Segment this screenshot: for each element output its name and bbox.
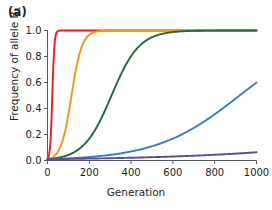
y-tick-label: 0.2 <box>26 129 42 140</box>
curve-blue-curve <box>48 83 257 160</box>
axes <box>44 31 257 165</box>
y-tick-label: 0.8 <box>26 51 42 62</box>
x-tick-label: 800 <box>205 167 224 178</box>
x-tick-label: 600 <box>163 167 182 178</box>
curve-green-curve <box>48 31 257 160</box>
y-tick-label: 0.0 <box>26 155 42 166</box>
y-tick-label: 1.0 <box>26 25 42 36</box>
y-tick-label: 0.4 <box>26 103 42 114</box>
figure-panel-a: (a) Frequency of allele B1 Generation 0.… <box>0 0 272 210</box>
curve-purple-curve <box>48 152 257 159</box>
x-tick-label: 0 <box>44 167 50 178</box>
x-tick-label: 1000 <box>244 167 269 178</box>
line-chart: 0.00.20.40.60.81.002004006008001000 <box>0 0 272 210</box>
x-tick-label: 200 <box>80 167 99 178</box>
data-curves <box>48 31 257 160</box>
y-tick-label: 0.6 <box>26 77 42 88</box>
curve-red-curve <box>48 31 257 160</box>
x-tick-label: 400 <box>122 167 141 178</box>
curve-orange-curve <box>48 31 257 160</box>
